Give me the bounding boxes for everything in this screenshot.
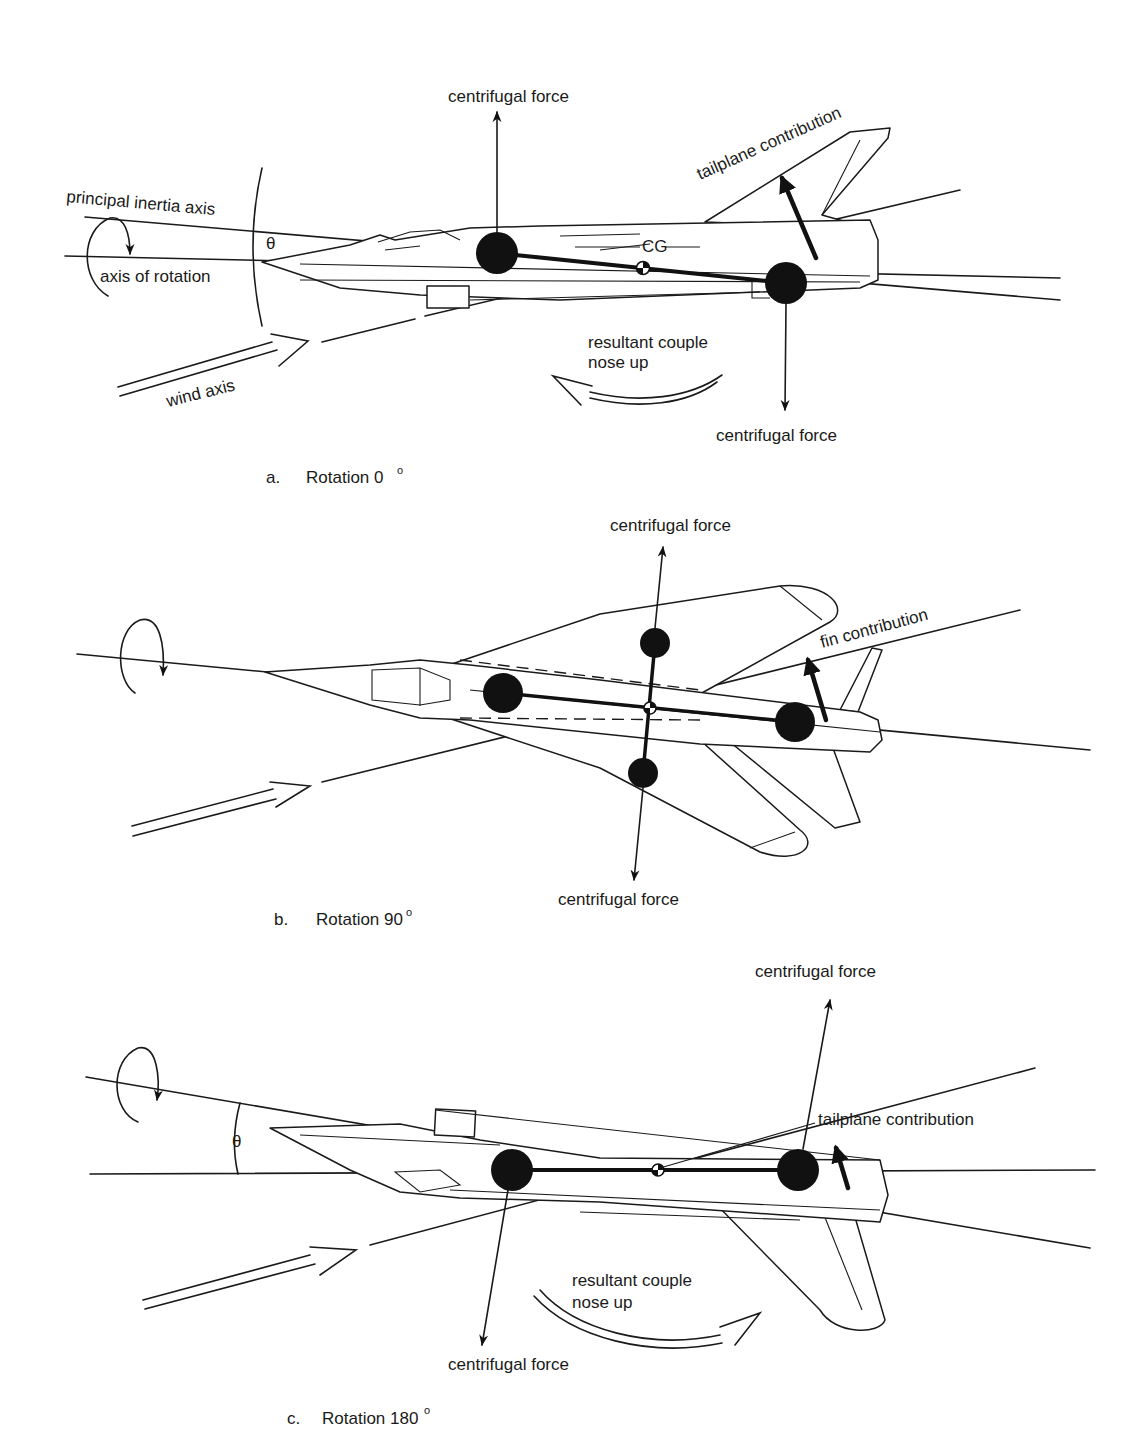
wind-arrow-icon [132,782,310,836]
svg-text:c.: c. [287,1409,300,1428]
caption-b: b. Rotation 90 o [274,906,412,929]
caption-a: a. Rotation 0 o [266,464,403,487]
label-nose-up: nose up [588,353,649,372]
rotation-direction-icon [117,1048,158,1122]
centrifugal-force-arrow-down [482,1190,508,1345]
svg-text:o: o [397,464,403,476]
resultant-couple-arrow-icon [534,1290,760,1348]
svg-text:o: o [406,906,412,918]
centrifugal-force-arrow-down [634,788,643,880]
mass-front [476,232,518,274]
cg-symbol-icon [652,1164,664,1176]
mass-lower-wing [628,758,658,788]
spin-rotation-diagram: centrifugal force centrifugal force tail… [0,0,1144,1430]
panel-a: centrifugal force centrifugal force tail… [65,87,1060,487]
label-tailplane-contribution: tailplane contribution [818,1110,974,1129]
label-resultant-couple: resultant couple [572,1271,692,1290]
svg-text:a.: a. [266,468,280,487]
resultant-couple-arrow-icon [553,375,722,405]
label-centrifugal-force-bottom: centrifugal force [448,1355,569,1374]
mass-front [491,1149,533,1191]
label-centrifugal-force-bottom: centrifugal force [558,890,679,909]
label-cg: CG [642,237,668,256]
label-theta: θ [232,1132,241,1151]
svg-text:o: o [424,1404,430,1416]
mass-rear [775,702,815,742]
svg-text:b.: b. [274,910,288,929]
cg-symbol-icon [637,262,650,275]
mass-upper-wing [640,628,670,658]
label-centrifugal-force-top: centrifugal force [755,962,876,981]
theta-angle-arc [253,168,262,326]
svg-text:Rotation 90: Rotation 90 [316,910,403,929]
label-centrifugal-force-bottom: centrifugal force [716,426,837,445]
wind-arrow-icon [143,1247,356,1309]
svg-text:Rotation 180: Rotation 180 [322,1409,418,1428]
centrifugal-force-arrow-down [785,304,786,410]
cg-symbol-icon [644,702,656,714]
label-centrifugal-force-top: centrifugal force [610,516,731,535]
mass-rear [765,262,807,304]
label-centrifugal-force-top: centrifugal force [448,87,569,106]
label-nose-up: nose up [572,1293,633,1312]
svg-text:Rotation 0: Rotation 0 [306,468,384,487]
label-axis-of-rotation: axis of rotation [100,267,211,286]
label-resultant-couple: resultant couple [588,333,708,352]
panel-c: centrifugal force centrifugal force tail… [86,962,1095,1428]
panel-b: centrifugal force centrifugal force fin … [77,516,1090,929]
rotation-direction-icon [121,619,164,693]
mass-front [483,673,523,713]
label-theta: θ [266,234,275,253]
label-principal-inertia-axis: principal inertia axis [66,187,216,219]
wind-axis-line [322,319,415,342]
mass-rear [777,1149,819,1191]
caption-c: c. Rotation 180 o [287,1404,430,1428]
